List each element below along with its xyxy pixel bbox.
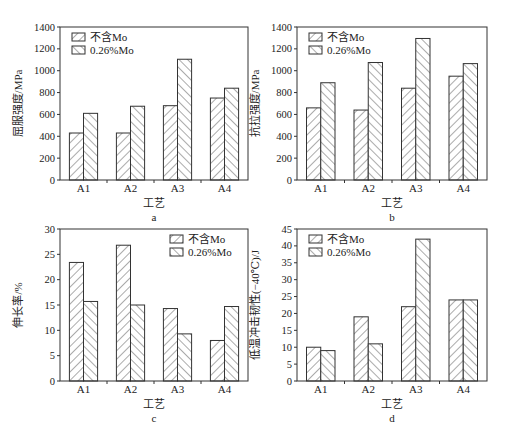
x-axis-label: 工艺 — [381, 197, 403, 209]
x-tick-label: A2 — [362, 182, 375, 194]
x-tick-label: A1 — [77, 383, 90, 395]
bar-a3-series-1 — [163, 106, 177, 180]
y-tick-label: 400 — [39, 131, 55, 142]
y-tick-label: 1200 — [271, 43, 292, 54]
legend-swatch-1-icon — [309, 235, 322, 243]
y-tick-label: 600 — [276, 109, 292, 120]
figure-canvas: A1A2A3A40200400600800100012001400屈服强度/MP… — [0, 0, 509, 443]
bar-a3-series-1 — [402, 307, 416, 381]
x-tick-label: A3 — [409, 182, 423, 194]
y-tick-label: 30 — [45, 224, 56, 235]
legend-swatch-2-icon — [309, 46, 322, 54]
y-tick-label: 40 — [282, 240, 293, 251]
legend-label: 0.26%Mo — [327, 246, 371, 258]
y-axis-label: 屈服强度/MPa — [11, 69, 24, 137]
bar-a4-series-1 — [210, 98, 224, 180]
bar-a3-series-2 — [178, 334, 192, 381]
x-tick-label: A4 — [457, 383, 471, 395]
bar-a3-series-2 — [178, 59, 192, 180]
x-tick-label: A2 — [362, 383, 375, 395]
chart-panel-b: A1A2A3A40200400600800100012001400抗拉强度/MP… — [248, 22, 487, 224]
bar-a1-series-1 — [69, 262, 83, 381]
y-tick-label: 400 — [276, 131, 292, 142]
x-tick-label: A3 — [409, 383, 423, 395]
y-tick-label: 0 — [50, 376, 55, 387]
bar-a2-series-2 — [368, 344, 382, 381]
y-tick-label: 30 — [282, 274, 293, 285]
y-tick-label: 1000 — [34, 65, 55, 76]
legend-label: 0.26%Mo — [188, 246, 232, 258]
bar-a1-series-1 — [307, 347, 321, 381]
y-tick-label: 15 — [282, 325, 293, 336]
legend-swatch-2-icon — [72, 46, 85, 54]
y-tick-label: 1200 — [34, 43, 55, 54]
y-axis-label: 抗拉强度/MPa — [248, 69, 261, 137]
legend-swatch-2-icon — [170, 248, 183, 256]
x-tick-label: A1 — [314, 383, 327, 395]
bar-a4-series-2 — [225, 88, 239, 180]
y-tick-label: 1400 — [34, 22, 55, 33]
x-tick-label: A1 — [77, 182, 90, 194]
bar-a1-series-1 — [69, 133, 83, 180]
y-tick-label: 200 — [276, 153, 292, 164]
y-tick-label: 1000 — [271, 65, 292, 76]
bar-a2-series-2 — [131, 106, 145, 180]
bar-a4-series-1 — [210, 340, 224, 381]
x-tick-label: A3 — [171, 383, 185, 395]
chart-panel-c: A1A2A3A4051015202530伸长率/%工艺c不含Mo0.26%Mo — [11, 224, 248, 425]
y-tick-label: 10 — [282, 342, 293, 353]
legend: 不含Mo0.26%Mo — [309, 30, 371, 56]
bar-a4-series-1 — [449, 76, 463, 180]
x-tick-label: A2 — [124, 383, 137, 395]
bar-a2-series-1 — [354, 317, 368, 381]
x-tick-label: A1 — [314, 182, 327, 194]
legend-swatch-1-icon — [170, 235, 183, 243]
legend-label: 不含Mo — [327, 30, 365, 43]
legend-swatch-2-icon — [309, 248, 322, 256]
bar-a2-series-2 — [368, 63, 382, 180]
legend-label: 0.26%Mo — [327, 44, 371, 56]
y-tick-label: 5 — [287, 359, 292, 370]
y-tick-label: 35 — [282, 257, 293, 268]
y-tick-label: 25 — [45, 249, 56, 260]
bar-a2-series-2 — [131, 305, 145, 381]
bar-a2-series-1 — [116, 133, 130, 180]
y-tick-label: 10 — [45, 325, 56, 336]
y-tick-label: 0 — [287, 175, 292, 186]
y-tick-label: 20 — [45, 274, 56, 285]
bar-a3-series-2 — [416, 38, 430, 180]
y-tick-label: 0 — [287, 376, 292, 387]
chart-panel-a: A1A2A3A40200400600800100012001400屈服强度/MP… — [11, 22, 248, 224]
y-tick-label: 25 — [282, 291, 293, 302]
legend-swatch-1-icon — [309, 33, 322, 41]
bar-a3-series-2 — [416, 239, 430, 381]
y-tick-label: 800 — [276, 87, 292, 98]
bar-a1-series-2 — [84, 301, 98, 381]
y-tick-label: 800 — [39, 87, 55, 98]
legend-label: 不含Mo — [90, 30, 128, 43]
bar-a2-series-1 — [354, 110, 368, 180]
legend: 不含Mo0.26%Mo — [309, 232, 371, 258]
legend-label: 不含Mo — [188, 232, 226, 245]
bar-a1-series-1 — [307, 108, 321, 180]
legend-swatch-1-icon — [72, 33, 85, 41]
x-tick-label: A4 — [218, 383, 232, 395]
bar-a1-series-2 — [321, 83, 335, 180]
bar-a1-series-2 — [321, 351, 335, 381]
x-axis-label: 工艺 — [143, 197, 165, 209]
x-axis-label: 工艺 — [143, 398, 165, 410]
y-tick-label: 0 — [50, 175, 55, 186]
x-tick-label: A4 — [218, 182, 232, 194]
bar-a1-series-2 — [84, 113, 98, 180]
bar-a2-series-1 — [116, 245, 130, 381]
bar-a4-series-2 — [463, 300, 477, 381]
x-tick-label: A2 — [124, 182, 137, 194]
y-tick-label: 1400 — [271, 22, 292, 33]
bar-a4-series-2 — [225, 307, 239, 381]
figure: A1A2A3A40200400600800100012001400屈服强度/MP… — [0, 0, 509, 443]
y-tick-label: 600 — [39, 109, 55, 120]
x-axis-label: 工艺 — [381, 398, 403, 410]
y-tick-label: 200 — [39, 153, 55, 164]
y-tick-label: 45 — [282, 224, 293, 235]
x-tick-label: A3 — [171, 182, 185, 194]
